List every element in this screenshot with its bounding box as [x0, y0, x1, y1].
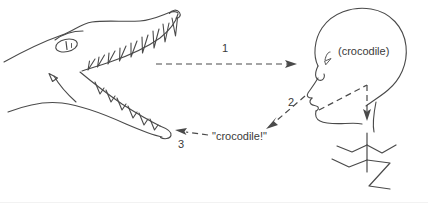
body-left-arm: [337, 145, 367, 152]
human-chin: [316, 111, 362, 124]
body-right-leg: [367, 160, 390, 189]
body-right-arm: [367, 145, 396, 153]
dashed-arrow-crocodile-to-head: [156, 60, 297, 68]
crocodile-upper-jaw: [82, 14, 178, 71]
crocodile-eye-pupil: [66, 42, 67, 50]
step-3-label: 3: [178, 138, 184, 150]
crocodile-jaw-spur: [54, 76, 76, 102]
crocodile-lower-jaw-underside: [8, 102, 162, 137]
crocodile-snout-top: [4, 12, 178, 62]
human-mouth: [310, 98, 318, 111]
crocodile-mouth-inner: [80, 72, 160, 126]
bottom-divider: [0, 202, 428, 203]
arrow-2-head: [266, 117, 278, 129]
body-left-leg: [332, 159, 367, 167]
human-head-profile-drawing: [307, 8, 406, 132]
utterance-label: "crocodile!": [212, 130, 267, 142]
crocodile-head-drawing: [4, 10, 180, 139]
diagram-svg: [0, 0, 428, 203]
dashed-arrow-head-to-utterance: [266, 96, 305, 129]
human-nose: [307, 78, 318, 98]
step-1-label: 1: [222, 42, 228, 54]
dashed-arrow-head-to-body: [319, 85, 371, 121]
human-head-outline: [315, 8, 406, 106]
arrow-3-head: [175, 128, 187, 135]
human-eye-lid: [325, 59, 331, 65]
human-face-profile: [316, 66, 325, 80]
crocodile-upper-teeth: [88, 18, 178, 70]
step-2-label: 2: [288, 96, 294, 108]
figure-canvas: 1 2 3 (crocodile) "crocodile!": [0, 0, 428, 203]
arrow-3-shaft: [186, 132, 208, 135]
percept-label: (crocodile): [338, 45, 389, 57]
human-neck: [373, 102, 376, 132]
dashed-arrow-utterance-to-crocodile: [175, 128, 208, 135]
crocodile-lower-teeth: [95, 82, 158, 130]
human-body-stick-figure-drawing: [332, 133, 396, 189]
arrow-body-diagonal: [319, 85, 367, 110]
